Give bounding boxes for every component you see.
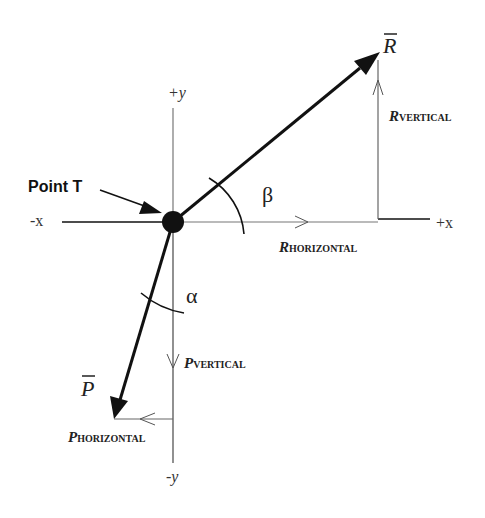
r-horizontal-label-main: R	[278, 239, 289, 255]
vector-p-label: P	[80, 376, 94, 401]
pos-x-label: +x	[436, 214, 453, 231]
neg-x-label: -x	[30, 212, 43, 229]
angle-alpha-label: α	[186, 283, 198, 308]
vector-p-shaft	[120, 222, 173, 400]
point-t-pointer-arrowhead	[139, 201, 162, 214]
angle-beta-label: β	[262, 182, 273, 207]
p-horizontal-label-sub: HORIZONTAL	[77, 433, 145, 444]
point-t-label: Point T	[28, 178, 82, 195]
vector-diagram: Point T -x +x +y -y R P β α RVERTICAL RH…	[0, 0, 485, 518]
p-vertical-label: PVERTICAL	[184, 355, 246, 371]
vector-r-label: R	[382, 33, 397, 58]
pos-y-label: +y	[168, 84, 187, 102]
r-vertical-label: RVERTICAL	[388, 108, 452, 124]
r-horizontal-label-sub: HORIZONTAL	[289, 243, 357, 254]
r-vertical-label-main: R	[388, 108, 399, 124]
p-horizontal-label: PHORIZONTAL	[68, 429, 146, 445]
r-vertical-label-sub: VERTICAL	[399, 112, 452, 123]
point-t-marker	[162, 211, 184, 233]
neg-y-label: -y	[166, 468, 179, 486]
p-vertical-label-sub: VERTICAL	[193, 359, 246, 370]
vector-p-arrowhead	[110, 396, 128, 419]
r-horizontal-label: RHORIZONTAL	[278, 239, 358, 255]
